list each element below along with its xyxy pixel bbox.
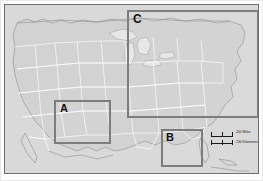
locator-box-a-label: A: [60, 103, 68, 114]
cuba-island: [211, 167, 249, 171]
scale-bar-miles-tick-right: [232, 132, 233, 137]
mexico-border: [49, 151, 113, 159]
locator-map-figure: A B C 200 Miles 200 Kilometers: [0, 0, 263, 181]
scale-bar-miles-tick-mid: [222, 132, 223, 137]
caribbean-islands: [219, 159, 237, 165]
scale-bar-miles-tick-left: [211, 132, 212, 137]
scale-bar-km-tick-mid: [222, 140, 223, 145]
locator-box-c-label: C: [133, 13, 142, 25]
map-frame: A B C 200 Miles 200 Kilometers: [4, 4, 259, 174]
scale-bar-miles-label: 200 Miles: [236, 131, 251, 134]
scale-bar: 200 Miles 200 Kilometers: [211, 129, 259, 155]
scale-bar-km-tick-left: [211, 140, 212, 145]
locator-box-c[interactable]: [127, 10, 259, 118]
scale-bar-kilometers-label: 200 Kilometers: [236, 141, 259, 144]
locator-box-b-label: B: [166, 132, 174, 143]
scale-bar-km-tick-right: [232, 140, 233, 145]
